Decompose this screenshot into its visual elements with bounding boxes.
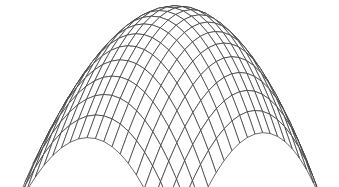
paraboloid-wireframe-surface: [0, 0, 339, 187]
mesh-cell: [292, 136, 307, 170]
surface-mesh: [9, 6, 328, 187]
wireframe-figure: 3D wireframe mesh of a dome-shaped (para…: [0, 0, 339, 187]
